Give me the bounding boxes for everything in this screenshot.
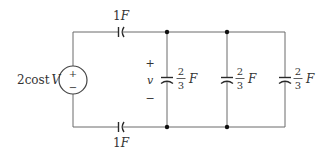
node-bottom-2 bbox=[225, 125, 229, 129]
svg-text:2: 2 bbox=[237, 66, 243, 77]
svg-text:3: 3 bbox=[178, 80, 184, 91]
bottom-capacitor-label: 1F bbox=[113, 136, 130, 150]
svg-text:3: 3 bbox=[237, 80, 243, 91]
circuit-diagram: + − 2costV 1F 1F + v − 2 3 F 2 3 F 2 bbox=[0, 0, 331, 157]
source-minus: − bbox=[69, 82, 77, 93]
node-bottom-1 bbox=[165, 125, 169, 129]
source-plus: + bbox=[69, 68, 77, 79]
svg-text:F: F bbox=[305, 72, 315, 86]
top-capacitor-label: 1F bbox=[113, 9, 130, 23]
node-top-1 bbox=[165, 30, 169, 34]
node-top-2 bbox=[225, 30, 229, 34]
shunt-capacitor-1-label: 2 3 F bbox=[177, 66, 199, 91]
source-label: 2costV bbox=[17, 73, 62, 87]
svg-text:3: 3 bbox=[295, 80, 301, 91]
voltage-symbol: v bbox=[147, 74, 154, 87]
shunt-capacitor-2-label: 2 3 F bbox=[236, 66, 258, 91]
shunt-capacitor-3-label: 2 3 F bbox=[294, 66, 316, 91]
svg-text:2: 2 bbox=[178, 66, 184, 77]
svg-text:F: F bbox=[188, 72, 198, 86]
voltage-plus: + bbox=[145, 57, 154, 70]
svg-text:F: F bbox=[247, 72, 257, 86]
svg-text:2: 2 bbox=[295, 66, 301, 77]
voltage-minus: − bbox=[145, 92, 154, 105]
